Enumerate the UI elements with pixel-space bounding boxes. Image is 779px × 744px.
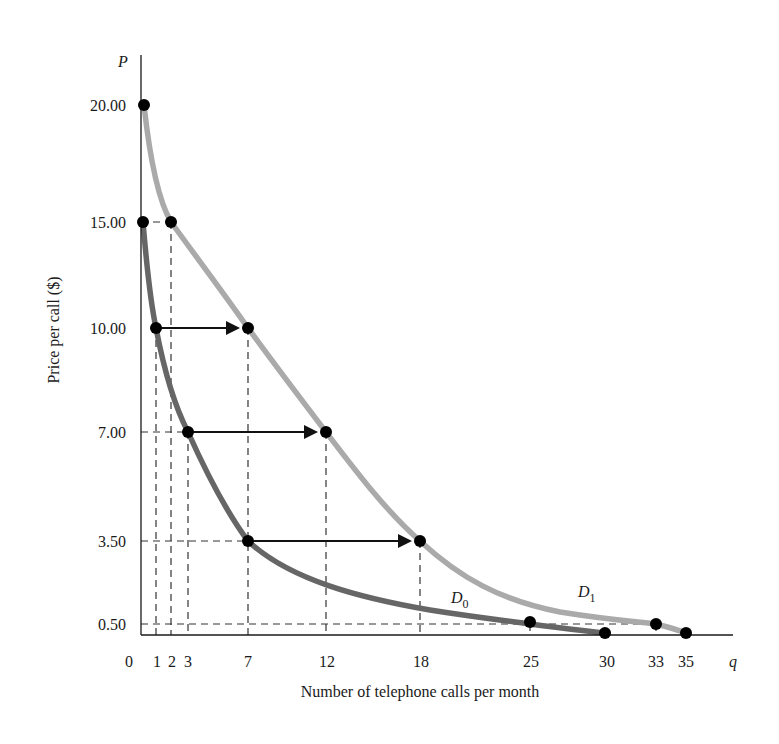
point-d0-0 (599, 627, 611, 639)
x-tick-label: 1 (153, 653, 161, 670)
point-d0-7 (182, 426, 194, 438)
x-axis-symbol: q (729, 653, 737, 671)
x-tick-label: 0 (125, 653, 133, 670)
x-tick-label: 2 (168, 653, 176, 670)
point-d0-15 (137, 216, 149, 228)
x-tick-label: 12 (319, 653, 335, 670)
y-axis-symbol: P (117, 53, 128, 70)
y-tick-label: 7.00 (98, 424, 126, 441)
shift-arrows (156, 321, 412, 548)
point-d1-10 (242, 322, 254, 334)
y-tick-label: 10.00 (90, 320, 126, 337)
point-d0-3-50 (242, 535, 254, 547)
demand-curve-d1 (144, 105, 686, 633)
y-axis-title: Price per call ($) (45, 276, 63, 383)
point-d0-10 (150, 322, 162, 334)
point-d1-0-50 (650, 618, 662, 630)
arrow-shift-3-50 (248, 534, 412, 548)
axes (141, 55, 733, 635)
arrow-shift-10 (156, 321, 240, 335)
point-d1-15 (165, 216, 177, 228)
x-tick-label: 7 (244, 653, 252, 670)
x-tick-label: 33 (648, 653, 664, 670)
point-d1-7 (320, 426, 332, 438)
arrow-shift-7 (188, 425, 318, 439)
x-tick-label: 30 (599, 653, 615, 670)
y-tick-label: 0.50 (98, 616, 126, 633)
x-tick-label: 35 (678, 653, 694, 670)
point-d0-0-50 (524, 616, 536, 628)
curve-label-d1: D1 (577, 583, 596, 605)
demand-curve-d0 (143, 222, 605, 633)
x-tick-labels: 0 1 2 3 7 12 18 25 30 33 35 (125, 653, 694, 670)
x-axis-title: Number of telephone calls per month (301, 683, 540, 701)
curve-label-d0: D0 (450, 589, 469, 611)
x-tick-label: 25 (523, 653, 539, 670)
y-tick-label: 15.00 (90, 214, 126, 231)
y-tick-label: 20.00 (90, 97, 126, 114)
x-tick-label: 18 (413, 653, 429, 670)
point-d1-20 (138, 99, 150, 111)
demand-shift-chart: 20.00 15.00 10.00 7.00 3.50 0.50 0 1 2 3… (0, 0, 779, 744)
point-d1-0 (680, 627, 692, 639)
y-tick-label: 3.50 (98, 533, 126, 550)
y-tick-labels: 20.00 15.00 10.00 7.00 3.50 0.50 (90, 97, 126, 633)
data-points (137, 99, 692, 639)
point-d1-3-50 (414, 535, 426, 547)
x-tick-label: 3 (184, 653, 192, 670)
